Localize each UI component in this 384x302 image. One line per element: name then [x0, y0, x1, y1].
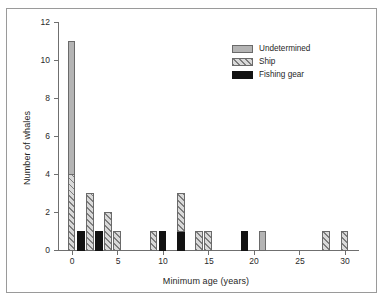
bar-segment [104, 212, 112, 251]
x-tick-label-10: 10 [151, 257, 175, 266]
x-tick-label-5: 5 [106, 257, 130, 266]
bar-segment [150, 231, 158, 251]
bar-segment [159, 231, 167, 251]
x-tick-5 [117, 251, 118, 255]
legend-swatch-ship-icon [232, 58, 253, 66]
legend-label-ship: Ship [259, 56, 275, 67]
x-tick-20 [254, 251, 255, 255]
bar-segment [113, 231, 121, 251]
bar-segment [95, 231, 103, 251]
y-tick-label-2: 2 [28, 208, 50, 217]
y-tick-6 [54, 136, 58, 137]
bar-segment [259, 231, 267, 251]
y-tick-2 [54, 212, 58, 213]
x-axis-label: Minimum age (years) [14, 276, 384, 286]
bar-segment [177, 193, 185, 232]
x-tick-label-30: 30 [333, 257, 357, 266]
legend-label-undetermined: Undetermined [259, 43, 310, 54]
y-tick-label-0: 0 [28, 246, 50, 255]
y-tick-4 [54, 174, 58, 175]
bar-segment [86, 193, 94, 251]
bar-segment [341, 231, 349, 251]
y-tick-label-10: 10 [28, 56, 50, 65]
x-tick-30 [345, 251, 346, 255]
bar-segment [195, 231, 203, 251]
x-tick-label-0: 0 [60, 257, 84, 266]
y-axis-line [58, 22, 59, 251]
x-tick-25 [299, 251, 300, 255]
y-tick-label-8: 8 [28, 94, 50, 103]
legend-swatch-undetermined-icon [232, 45, 253, 53]
y-tick-12 [54, 22, 58, 23]
legend-swatch-fishing-gear-icon [232, 71, 253, 79]
x-tick-label-15: 15 [197, 257, 221, 266]
y-tick-8 [54, 98, 58, 99]
x-tick-15 [208, 251, 209, 255]
x-tick-0 [72, 251, 73, 255]
y-axis-label: Number of whales [22, 111, 32, 185]
x-tick-label-25: 25 [288, 257, 312, 266]
legend: Undetermined Ship Fishing gear [232, 43, 352, 82]
bar-segment [322, 231, 330, 251]
x-tick-label-20: 20 [242, 257, 266, 266]
plot-area: 0 2 4 6 8 10 12 0 5 10 15 20 25 30 Numbe… [0, 0, 384, 302]
legend-row-ship: Ship [232, 56, 352, 69]
x-tick-10 [163, 251, 164, 255]
legend-row-fishing-gear: Fishing gear [232, 69, 352, 82]
y-tick-0 [54, 250, 58, 251]
legend-label-fishing-gear: Fishing gear [259, 69, 304, 80]
y-tick-label-12: 12 [28, 18, 50, 27]
figure-canvas: 0 2 4 6 8 10 12 0 5 10 15 20 25 30 Numbe… [0, 0, 384, 302]
legend-row-undetermined: Undetermined [232, 43, 352, 56]
y-tick-10 [54, 60, 58, 61]
bar-segment [204, 231, 212, 251]
bar-segment [68, 174, 76, 251]
bar-segment [241, 231, 249, 251]
bar-segment [68, 41, 76, 175]
bar-segment [177, 231, 185, 251]
bar-segment [77, 231, 85, 251]
